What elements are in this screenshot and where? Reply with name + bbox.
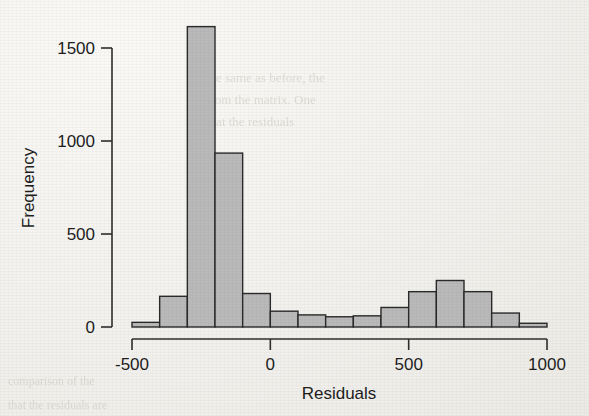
- histogram-figure: 050010001500 -50005001000 Residuals Freq…: [0, 0, 589, 416]
- x-axis-title: Residuals: [302, 384, 377, 403]
- y-axis-tick-label: 1000: [57, 132, 95, 151]
- y-axis-tick-label: 1500: [57, 39, 95, 58]
- histogram-bar: [381, 307, 409, 327]
- histogram-bar: [519, 323, 547, 327]
- histogram-bars: [132, 27, 547, 327]
- y-axis-ticks: [101, 48, 112, 327]
- histogram-bar: [132, 322, 160, 327]
- x-axis-tick-labels: -50005001000: [115, 355, 566, 374]
- histogram-bar: [160, 296, 188, 327]
- histogram-bar: [215, 153, 243, 327]
- histogram-bar: [464, 292, 492, 327]
- y-axis-tick-labels: 050010001500: [57, 39, 95, 337]
- histogram-bar: [409, 292, 437, 327]
- y-axis-tick-label: 0: [86, 318, 95, 337]
- y-axis-tick-label: 500: [67, 225, 95, 244]
- histogram-bar: [436, 281, 464, 328]
- histogram-bar: [492, 313, 520, 327]
- histogram-chart: 050010001500 -50005001000 Residuals Freq…: [0, 0, 589, 416]
- histogram-bar: [353, 316, 381, 327]
- histogram-bar: [243, 294, 271, 327]
- histogram-bar: [326, 317, 354, 327]
- histogram-bar: [298, 315, 326, 327]
- histogram-bar: [187, 27, 215, 327]
- x-axis-tick-label: 1000: [528, 355, 566, 374]
- y-axis-title: Frequency: [19, 147, 38, 228]
- x-axis-tick-label: -500: [115, 355, 149, 374]
- x-axis-ticks: [132, 339, 547, 350]
- x-axis-tick-label: 0: [266, 355, 275, 374]
- histogram-bar: [270, 311, 298, 327]
- x-axis-tick-label: 500: [394, 355, 422, 374]
